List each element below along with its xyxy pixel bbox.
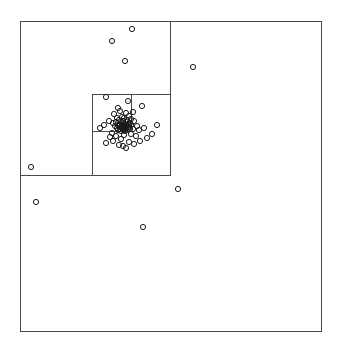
quadtree-plot-canvas — [0, 0, 339, 347]
quadtree-figure — [0, 0, 339, 347]
